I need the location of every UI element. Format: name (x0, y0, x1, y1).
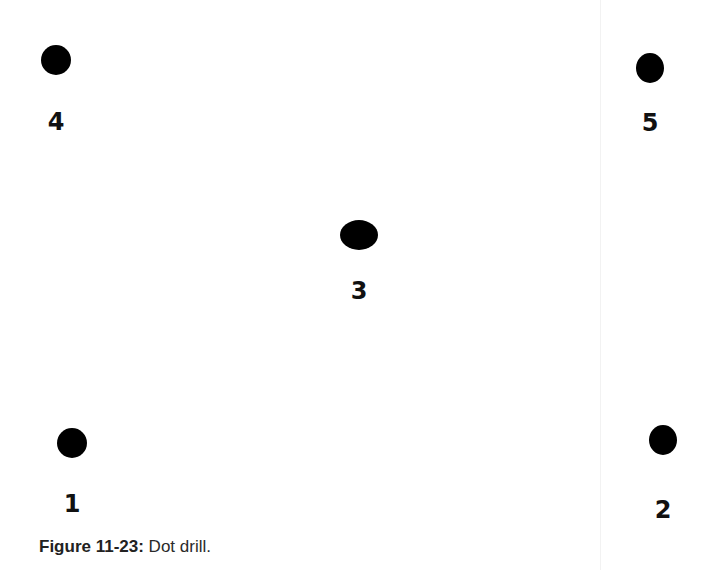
figure-caption: Figure 11-23: Dot drill. (39, 537, 211, 557)
dot-5 (636, 53, 664, 83)
dot-2 (649, 425, 677, 455)
dot-label-5: 5 (642, 111, 659, 135)
figure-caption-label: Figure 11-23: (39, 537, 144, 556)
figure-caption-text: Dot drill. (149, 537, 211, 556)
dot-label-2: 2 (655, 498, 672, 522)
page-gutter-line (600, 0, 601, 570)
dot-label-4: 4 (48, 110, 65, 134)
dot-label-3: 3 (351, 279, 368, 303)
dot-1 (57, 428, 87, 458)
dot-label-1: 1 (64, 492, 81, 516)
dot-3 (340, 220, 378, 250)
dot-4 (41, 45, 71, 75)
